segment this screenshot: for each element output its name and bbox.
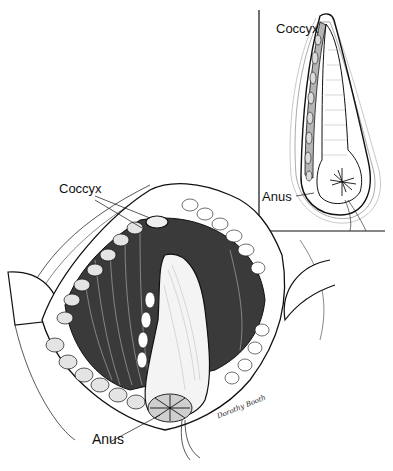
retractor-right [284, 260, 335, 320]
illustration [0, 0, 393, 471]
inset-anus-label: Anus [262, 190, 292, 203]
main-coccyx-label: Coccyx [59, 182, 102, 195]
main-anus-label: Anus [92, 432, 124, 446]
inset-coccyx-label: Coccyx [276, 22, 319, 35]
main-view [8, 184, 335, 460]
